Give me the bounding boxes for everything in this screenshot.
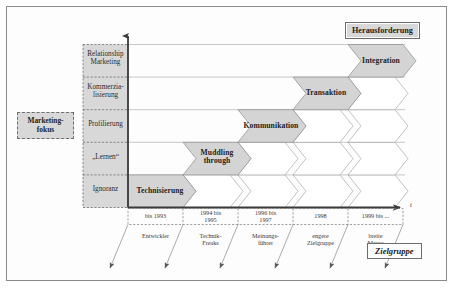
x-category-label-1996-1997: 1996 bis 1997 [238,210,293,223]
marketing-focus-box: Marketing- fokus [17,112,74,139]
y-category-label-profilierung: Profilierung [83,121,128,129]
y-category-label-ignoranz: Ignoranz [83,186,128,194]
y-category-label-lernen: „Lernen“ [83,154,128,162]
stage-label-transaktion: Transaktion [296,89,356,97]
challenge-box: Herausforderung [345,22,420,39]
target-group-label-engere-zielgruppe: engere Zielgruppe [293,233,348,246]
time-axis-label: t [406,201,416,208]
stage-label-technisierung: Technisierung [131,187,189,195]
x-category-label-1999-bis: 1999 bis ... [348,213,403,220]
diagram-root: Relationship Marketing Kommerzia- lisier… [0,0,455,295]
stage-label-kommunikation: Kommunikation [240,122,302,130]
y-category-label-kommerzialisierung: Kommerzia- lisierung [83,84,128,100]
y-category-label-relationship-marketing: Relationship Marketing [83,51,128,67]
x-category-label-1994-1995: 1994 bis 1995 [183,210,238,223]
target-group-box: Zielgruppe [367,243,422,259]
target-group-label-entwickler: Entwickler [128,233,183,240]
stage-label-muddling-through: Muddling through [188,149,246,165]
x-category-label-1998: 1998 [293,213,348,220]
x-category-label-bis-1993: bis 1993 [128,213,183,220]
target-group-label-meinungsfuehrer: Meinungs- führer [238,233,293,246]
stage-label-integration: Integration [351,57,411,65]
target-group-label-technik-freaks: Technik- Freaks [183,233,238,246]
